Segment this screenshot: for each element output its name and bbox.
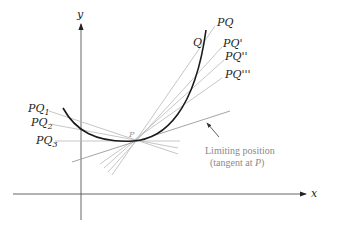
secant-tangent-diagram: x y P Q PQ PQ' PQ'' PQ''' PQ1 PQ2 PQ3: [0, 0, 339, 231]
left-secant-labels: PQ1 PQ2 PQ3: [27, 102, 58, 149]
point-q-label: Q: [193, 36, 202, 49]
secant-pq-triple-prime: [100, 78, 222, 164]
label-pq-triple-prime: PQ''': [224, 68, 251, 81]
label-pq-double-prime: PQ'': [224, 50, 247, 63]
right-secant-labels: PQ PQ' PQ'' PQ''': [216, 16, 251, 81]
label-pq: PQ: [216, 16, 233, 29]
annotation-arrow: [207, 123, 219, 137]
annotation-line-1: Limiting position: [205, 145, 275, 156]
secant-pq2: [50, 124, 178, 148]
x-axis-label: x: [311, 187, 318, 200]
label-pq1: PQ1: [27, 102, 50, 117]
annotation-line-2: (tangent at P): [210, 157, 264, 169]
point-p-label: P: [128, 130, 135, 139]
y-axis-label: y: [76, 8, 84, 21]
limiting-position-note: Limiting position (tangent at P): [205, 145, 275, 169]
label-pq3: PQ3: [35, 134, 58, 149]
curve: [63, 30, 206, 141]
label-pq2: PQ2: [30, 116, 53, 131]
label-pq-prime: PQ': [222, 37, 242, 50]
